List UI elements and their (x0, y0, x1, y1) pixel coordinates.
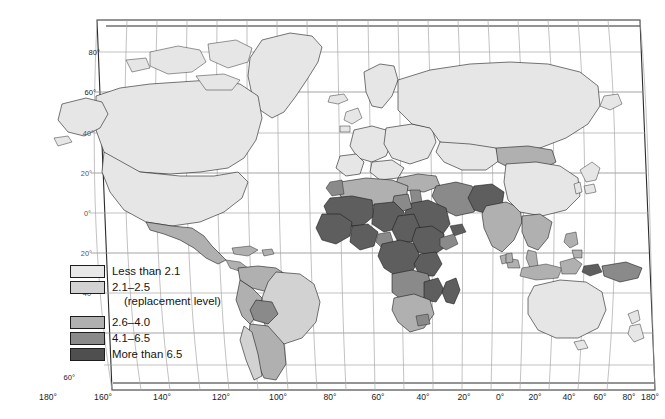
world-fertility-map-figure: 180° 160° 140° 120° 100° 80° 60° 40° 20°… (0, 0, 665, 419)
legend-label: More than 6.5 (112, 348, 182, 361)
lon-label: 160° (94, 392, 112, 402)
lon-label: 60° (594, 392, 607, 402)
lat-label: 60° (85, 88, 96, 97)
region-caribbean (232, 246, 274, 256)
region-southeast-asia (522, 214, 552, 268)
lat-label: 20° (81, 249, 92, 258)
legend-label: 2.6–4.0 (112, 316, 150, 329)
legend-row: 2.1–2.5 (70, 280, 240, 295)
lon-label: 40° (417, 392, 430, 402)
legend-row: Less than 2.1 (70, 264, 240, 279)
lon-label: 80° (324, 392, 337, 402)
region-new-zealand (628, 310, 644, 342)
lon-label: 80° (623, 392, 636, 402)
legend-row: 2.6–4.0 (70, 315, 240, 330)
lon-label: 20° (458, 392, 471, 402)
legend-spacer (70, 308, 240, 315)
legend-row: 4.1–6.5 (70, 331, 240, 346)
legend-row: More than 6.5 (70, 347, 240, 362)
region-iceland (328, 94, 348, 104)
region-south-africa (392, 294, 434, 332)
region-australia (528, 280, 606, 350)
lat-label: 20° (81, 169, 92, 178)
lat-label: 0° (84, 209, 91, 218)
lat-label-bottom: 60° (64, 373, 75, 382)
region-india (482, 202, 522, 264)
region-east-africa (412, 226, 458, 276)
region-papua-new-guinea (602, 262, 642, 282)
lon-label: 180° (39, 392, 57, 402)
region-philippines (564, 232, 582, 258)
legend-swatch-less-than-2-1 (70, 265, 105, 278)
lon-label: 180° (641, 392, 659, 402)
map-legend: Less than 2.1 2.1–2.5 (replacement level… (70, 264, 240, 363)
legend-swatch-more-than-6-5 (70, 348, 105, 361)
lon-label: 120° (212, 392, 230, 402)
lon-label: 140° (153, 392, 171, 402)
lon-label: 20° (529, 392, 542, 402)
legend-label: 2.1–2.5 (112, 281, 150, 294)
region-canada (96, 40, 262, 174)
legend-label: 4.1–6.5 (112, 332, 150, 345)
legend-sublabel-replacement-level: (replacement level) (124, 295, 240, 308)
legend-swatch-2-1-to-2-5 (70, 281, 105, 294)
lon-label: 60° (372, 392, 385, 402)
longitude-axis-labels: 180° 160° 140° 120° 100° 80° 60° 40° 20°… (39, 392, 635, 402)
lon-label: 40° (563, 392, 576, 402)
region-madagascar (442, 278, 460, 304)
lon-label: 100° (269, 392, 287, 402)
lat-label: 80° (89, 48, 100, 57)
legend-swatch-2-6-to-4-0 (70, 316, 105, 329)
lon-label: 0° (496, 392, 504, 402)
legend-label: Less than 2.1 (112, 265, 180, 278)
region-western-europe (336, 64, 398, 176)
longitude-axis-labels-right: 180° (641, 392, 659, 402)
region-sri-lanka (506, 253, 513, 263)
lat-label: 40° (83, 129, 94, 138)
legend-swatch-4-1-to-6-5 (70, 332, 105, 345)
